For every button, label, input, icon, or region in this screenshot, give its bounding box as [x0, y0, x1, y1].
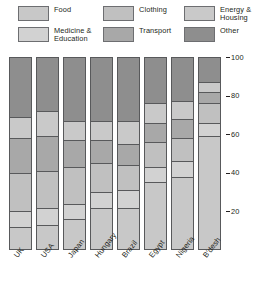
bar-segment-food — [10, 228, 31, 250]
bar-segment-energy_housing — [145, 104, 166, 123]
bar-egypt[interactable] — [144, 57, 167, 250]
bar-segment-food — [199, 137, 220, 250]
bar-segment-medicine_education — [118, 191, 139, 208]
bar-japan[interactable] — [63, 57, 86, 250]
bar-bdesh[interactable] — [198, 57, 221, 250]
bar-segment-transport — [145, 124, 166, 143]
bar-segment-food — [145, 183, 166, 250]
bar-segment-other — [10, 58, 31, 118]
y-axis-tick-label-100: 100 — [231, 53, 244, 62]
legend-swatch-clothing — [103, 6, 134, 21]
legend-label-transport: Transport — [139, 27, 171, 35]
bar-segment-other — [172, 58, 193, 102]
y-axis-tick-label-20: 20 — [231, 207, 240, 216]
legend-swatch-food — [18, 6, 49, 21]
bar-segment-transport — [172, 120, 193, 139]
bar-segment-other — [145, 58, 166, 104]
bar-segment-medicine_education — [199, 124, 220, 138]
bar-usa[interactable] — [36, 57, 59, 250]
bar-segment-energy_housing — [172, 102, 193, 119]
bar-segment-food — [118, 209, 139, 251]
bar-segment-food — [37, 226, 58, 250]
bar-segment-medicine_education — [91, 193, 112, 208]
y-axis-tick-mark-100 — [226, 57, 230, 58]
y-axis-tick-mark-60 — [226, 134, 230, 135]
legend-column-3: Energy & HousingOther — [184, 6, 253, 48]
y-axis-tick-label-60: 60 — [231, 130, 240, 139]
chart-root: FoodMedicine & EducationClothingTranspor… — [0, 0, 253, 288]
bar-segment-food — [91, 209, 112, 250]
bar-segment-medicine_education — [172, 162, 193, 177]
legend-label-clothing: Clothing — [139, 6, 167, 14]
bar-segment-transport — [64, 141, 85, 168]
bar-segment-clothing — [91, 164, 112, 193]
bar-hungary[interactable] — [90, 57, 113, 250]
legend-item-other[interactable]: Other — [184, 27, 253, 45]
legend-swatch-other — [184, 27, 215, 42]
bar-segment-clothing — [199, 104, 220, 123]
bar-segment-clothing — [64, 168, 85, 205]
y-axis-tick-mark-80 — [226, 96, 230, 97]
bar-segment-other — [64, 58, 85, 122]
bar-segment-energy_housing — [37, 112, 58, 137]
bar-segment-clothing — [10, 174, 31, 213]
bar-segment-clothing — [172, 139, 193, 162]
bar-segment-food — [64, 220, 85, 250]
bar-segment-food — [172, 178, 193, 250]
legend-item-transport[interactable]: Transport — [103, 27, 181, 45]
bar-segment-transport — [199, 93, 220, 105]
bar-segment-energy_housing — [64, 122, 85, 141]
legend-item-clothing[interactable]: Clothing — [103, 6, 181, 24]
legend-swatch-medicine_education — [18, 27, 49, 42]
bar-segment-clothing — [118, 166, 139, 191]
bar-segment-energy_housing — [91, 122, 112, 141]
legend-swatch-transport — [103, 27, 134, 42]
bar-segment-transport — [118, 145, 139, 166]
y-axis-tick-mark-20 — [226, 211, 230, 212]
legend-swatch-energy_housing — [184, 6, 215, 21]
bar-segment-clothing — [145, 143, 166, 168]
bar-segment-other — [118, 58, 139, 122]
bar-segment-energy_housing — [118, 122, 139, 145]
bar-nigeria[interactable] — [171, 57, 194, 250]
legend-column-2: ClothingTransport — [103, 6, 181, 48]
bar-segment-energy_housing — [10, 118, 31, 139]
bar-segment-clothing — [37, 172, 58, 209]
bar-segment-other — [199, 58, 220, 83]
legend-item-energy_housing[interactable]: Energy & Housing — [184, 6, 253, 24]
legend-label-energy_housing: Energy & Housing — [220, 6, 251, 22]
bar-segment-transport — [10, 139, 31, 174]
legend-item-food[interactable]: Food — [18, 6, 96, 24]
bar-uk[interactable] — [9, 57, 32, 250]
legend-item-medicine_education[interactable]: Medicine & Education — [18, 27, 96, 45]
y-axis-tick-mark-40 — [226, 173, 230, 174]
bar-segment-medicine_education — [145, 168, 166, 183]
bar-segment-medicine_education — [37, 209, 58, 226]
legend-column-1: FoodMedicine & Education — [18, 6, 96, 48]
bar-segment-medicine_education — [10, 212, 31, 227]
bar-segment-other — [37, 58, 58, 112]
y-axis-tick-label-40: 40 — [231, 168, 240, 177]
bar-brazil[interactable] — [117, 57, 140, 250]
chart-legend: FoodMedicine & EducationClothingTranspor… — [0, 6, 253, 52]
legend-label-medicine_education: Medicine & Education — [54, 27, 92, 43]
legend-label-other: Other — [220, 27, 239, 35]
bar-segment-other — [91, 58, 112, 122]
bar-segment-medicine_education — [64, 205, 85, 220]
legend-label-food: Food — [54, 6, 71, 14]
bar-segment-transport — [37, 137, 58, 172]
y-axis-tick-label-80: 80 — [231, 91, 240, 100]
bar-segment-energy_housing — [199, 83, 220, 93]
bar-segment-transport — [91, 141, 112, 164]
